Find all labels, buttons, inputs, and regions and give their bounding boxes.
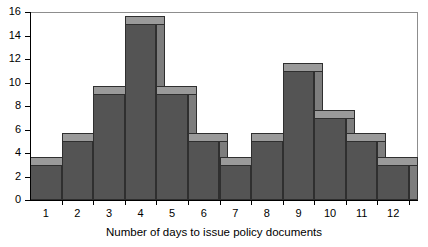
x-axis-tick-label: 12 (379, 208, 407, 219)
bar-front-face (93, 94, 125, 200)
y-axis-tick (25, 177, 30, 178)
x-axis-tick (220, 201, 221, 205)
x-axis-tick-label: 9 (284, 208, 312, 219)
bar-front-face (377, 165, 409, 200)
y-axis-tick (25, 130, 30, 131)
x-axis-line (30, 200, 418, 201)
x-axis-tick-label: 1 (32, 208, 60, 219)
bar-front-face (314, 118, 346, 200)
y-axis-tick-label: 4 (15, 147, 21, 158)
bar-front-face (220, 165, 252, 200)
y-axis-tick-label: 14 (9, 30, 21, 41)
bar-front-face (156, 94, 188, 200)
bar-front-face (62, 141, 94, 200)
x-axis-tick-label: 6 (190, 208, 218, 219)
y-axis-tick-label: 10 (9, 77, 21, 88)
x-axis-tick (93, 201, 94, 205)
x-axis-tick (409, 201, 410, 205)
y-axis-tick-label: 6 (15, 124, 21, 135)
x-axis-tick-label: 2 (63, 208, 91, 219)
bar-front-face (283, 71, 315, 200)
bar-front-face (188, 141, 220, 200)
y-axis-tick-label: 8 (15, 100, 21, 111)
x-axis-tick (125, 201, 126, 205)
bar-front-face (125, 24, 157, 200)
y-axis-tick (25, 59, 30, 60)
histogram-chart: 0246810121416 123456789101112 Number of … (0, 0, 428, 247)
y-axis-tick (25, 83, 30, 84)
y-axis-tick (25, 12, 30, 13)
y-axis-line (30, 12, 31, 201)
x-axis-tick-label: 5 (158, 208, 186, 219)
x-axis-tick-label: 4 (127, 208, 155, 219)
bar-front-face (251, 141, 283, 200)
x-axis-tick-label: 10 (316, 208, 344, 219)
y-axis-tick (25, 200, 30, 201)
y-axis-tick-label: 12 (9, 53, 21, 64)
x-axis-tick (346, 201, 347, 205)
y-axis-tick-label: 16 (9, 6, 21, 17)
y-axis-tick (25, 153, 30, 154)
y-axis-tick (25, 106, 30, 107)
bar (377, 157, 418, 200)
x-axis-tick-label: 3 (95, 208, 123, 219)
bar-front-face (30, 165, 62, 200)
x-axis-tick (377, 201, 378, 205)
x-axis-tick (188, 201, 189, 205)
y-axis-tick-label: 2 (15, 171, 21, 182)
x-axis-tick (62, 201, 63, 205)
x-axis-tick (156, 201, 157, 205)
x-axis-tick-label: 7 (221, 208, 249, 219)
x-axis-tick (251, 201, 252, 205)
x-axis-tick-label: 11 (348, 208, 376, 219)
y-axis-tick (25, 36, 30, 37)
x-axis-title: Number of days to issue policy documents (0, 226, 428, 238)
y-axis-tick-label: 0 (15, 194, 21, 205)
x-axis-tick-label: 8 (253, 208, 281, 219)
x-axis-tick (283, 201, 284, 205)
bar-front-face (346, 141, 378, 200)
x-axis-tick (314, 201, 315, 205)
